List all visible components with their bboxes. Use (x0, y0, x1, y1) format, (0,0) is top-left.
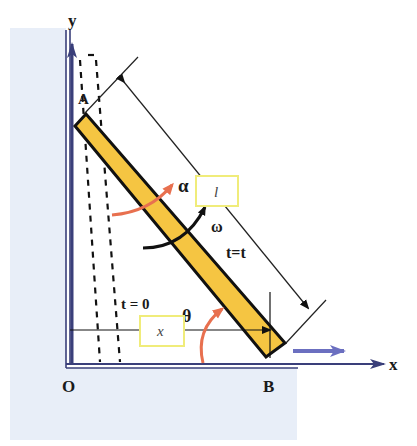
point-b-label: B (263, 377, 274, 396)
x-label: x (156, 323, 164, 339)
point-a-label: A (78, 91, 89, 107)
time-current-label: t=t (226, 244, 246, 261)
x-axis-label: x (389, 355, 398, 374)
alpha-label: α (178, 175, 189, 196)
time-initial-label: t = 0 (121, 296, 150, 312)
origin-label: O (62, 377, 75, 396)
length-label: l (214, 184, 218, 200)
omega-label: ω (211, 218, 223, 235)
ladder-diagram: y x O B A α ω t=t t = 0 θ l x (0, 0, 417, 446)
y-axis-label: y (68, 11, 77, 30)
